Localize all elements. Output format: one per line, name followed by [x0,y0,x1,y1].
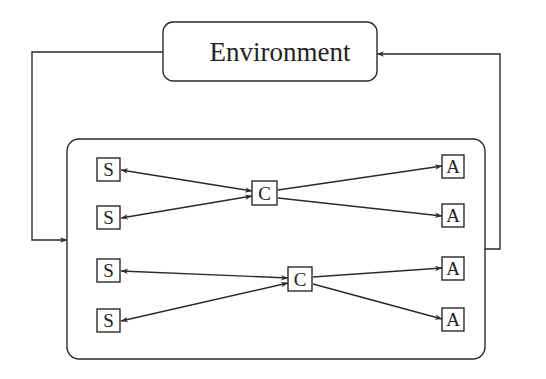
actuator-node: A [442,204,464,227]
actuator-node: A [442,155,464,178]
sensor-label: S [103,159,114,180]
sensor-label: S [103,310,114,331]
actuator-node: A [442,308,464,331]
actuator-node: A [442,257,464,280]
controller-node: C [252,181,277,205]
actuator-label: A [446,205,460,226]
actuator-label: A [446,309,460,330]
environment-label: Environment [210,37,351,67]
actuator-label: A [446,258,460,279]
sensor-node: S [97,309,120,332]
sensor-node: S [97,206,120,229]
sensor-node: S [97,158,120,181]
actuator-label: A [446,156,460,177]
controller-node: C [288,267,312,291]
sensor-label: S [103,260,114,281]
controller-label: C [258,183,271,204]
controller-label: C [294,269,307,290]
sensor-node: S [97,259,120,282]
sensor-label: S [103,207,114,228]
environment-node: Environment [163,22,377,81]
diagram-canvas: Environment S S S S C C [0,0,546,379]
